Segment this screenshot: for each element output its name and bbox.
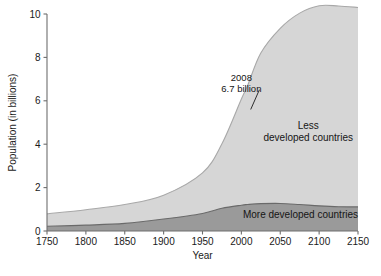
chart-canvas: 0246810 17501800185019001950200020502100…	[0, 0, 381, 276]
x-tick-label-2150: 2150	[347, 236, 370, 247]
y-axis-title: Population (in billions)	[7, 74, 18, 172]
y-tick-label-10: 10	[29, 9, 41, 20]
x-tick-label-1900: 1900	[153, 236, 176, 247]
x-tick-label-1950: 1950	[191, 236, 214, 247]
y-tick-label-2: 2	[35, 182, 41, 193]
x-axis-tick-labels: 175018001850190019502000205021002150	[36, 236, 370, 247]
y-tick-label-6: 6	[35, 95, 41, 106]
x-tick-label-2100: 2100	[308, 236, 331, 247]
x-tick-label-2050: 2050	[269, 236, 292, 247]
population-projection-chart: 0246810 17501800185019001950200020502100…	[0, 0, 381, 276]
x-tick-label-1850: 1850	[114, 236, 137, 247]
y-tick-label-0: 0	[35, 226, 41, 237]
y-tick-label-8: 8	[35, 52, 41, 63]
x-tick-label-2000: 2000	[230, 236, 253, 247]
x-tick-label-1750: 1750	[36, 236, 59, 247]
y-tick-label-4: 4	[35, 139, 41, 150]
x-axis-title: Year	[192, 250, 213, 261]
x-tick-label-1800: 1800	[75, 236, 98, 247]
series-label-more-developed-countries: More developed countries	[243, 209, 358, 220]
